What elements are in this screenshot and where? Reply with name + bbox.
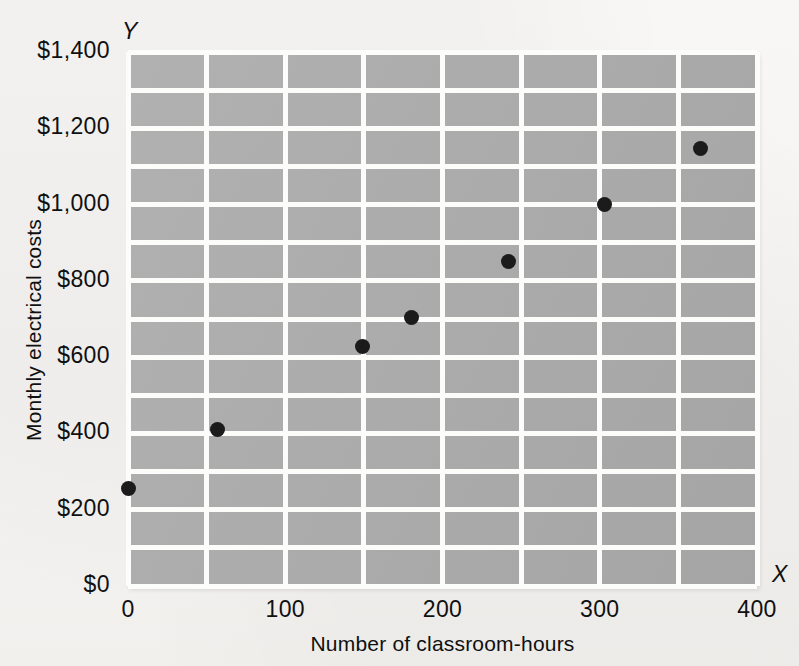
x-axis-tick-label: 200 bbox=[423, 596, 463, 623]
data-point bbox=[355, 339, 370, 354]
y-axis-tick-labels: $0$200$400$600$800$1,000$1,200$1,400 bbox=[0, 0, 118, 666]
y-axis-title: Monthly electrical costs bbox=[22, 200, 46, 460]
x-axis-title: Number of classroom-hours bbox=[128, 632, 757, 656]
data-point bbox=[121, 481, 136, 496]
y-axis-tick-label: $800 bbox=[57, 266, 110, 293]
plot-area bbox=[128, 52, 757, 586]
y-axis-tick-label: $1,000 bbox=[37, 190, 110, 217]
y-axis-tick-label: $1,200 bbox=[37, 113, 110, 140]
y-axis-tick-label: $200 bbox=[57, 495, 110, 522]
data-point bbox=[597, 197, 612, 212]
y-axis-tick-label: $400 bbox=[57, 418, 110, 445]
x-axis-tick-label: 0 bbox=[121, 596, 134, 623]
y-axis-tick-label: $0 bbox=[84, 571, 110, 598]
x-axis-tick-label: 400 bbox=[737, 596, 777, 623]
y-axis-tick-label: $1,400 bbox=[37, 37, 110, 64]
y-axis-tick-label: $600 bbox=[57, 342, 110, 369]
scatter-chart-figure: $0$200$400$600$800$1,000$1,200$1,400 010… bbox=[0, 0, 799, 666]
x-axis-tick-label: 300 bbox=[580, 596, 620, 623]
data-point bbox=[210, 422, 225, 437]
data-point bbox=[693, 141, 708, 156]
x-axis-letter: X bbox=[772, 561, 787, 588]
data-points-layer bbox=[128, 52, 757, 586]
x-axis-tick-label: 100 bbox=[265, 596, 305, 623]
data-point bbox=[501, 254, 516, 269]
y-axis-letter: Y bbox=[122, 18, 137, 45]
data-point bbox=[404, 310, 419, 325]
